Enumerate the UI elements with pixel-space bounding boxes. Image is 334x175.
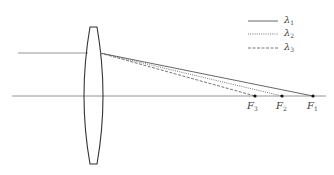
ray-lambda-3 bbox=[100, 53, 255, 96]
focal-point-f1 bbox=[311, 94, 314, 97]
legend-label-lambda-3: λ3 bbox=[284, 42, 294, 53]
legend-label-lambda-2: λ2 bbox=[284, 28, 294, 39]
focal-label-f3: F3 bbox=[247, 101, 258, 112]
focal-point-f3 bbox=[253, 94, 256, 97]
convex-lens bbox=[84, 27, 103, 164]
ray-lambda-1 bbox=[100, 53, 313, 96]
legend-label-lambda-1: λ1 bbox=[284, 15, 294, 26]
focal-label-f1: F1 bbox=[307, 101, 318, 112]
ray-lambda-2 bbox=[100, 53, 282, 96]
focal-label-f2: F2 bbox=[276, 101, 287, 112]
focal-point-f2 bbox=[280, 94, 283, 97]
